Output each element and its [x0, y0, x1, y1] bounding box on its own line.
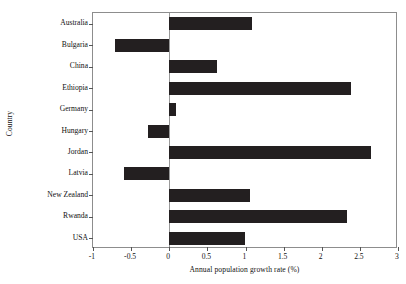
- x-axis-tick: [131, 247, 132, 251]
- y-axis-tick-label: Latvia: [69, 167, 88, 179]
- y-axis-tick: [89, 195, 93, 196]
- bar-germany: [169, 103, 176, 116]
- x-axis-tick-label: 1.5: [266, 252, 300, 261]
- x-axis-tick-label: -1: [75, 252, 109, 261]
- y-axis-tick-label: Jordan: [68, 146, 88, 158]
- y-axis-tick: [89, 217, 93, 218]
- y-axis-tick-label: Germany: [60, 103, 88, 115]
- x-axis-tick: [398, 247, 399, 251]
- bar-china: [169, 60, 216, 73]
- bar-australia: [169, 17, 252, 30]
- bar-latvia: [124, 167, 170, 180]
- x-axis-tick-label: 3: [380, 252, 406, 261]
- x-axis-tick: [169, 247, 170, 251]
- y-axis-tick: [89, 45, 93, 46]
- x-axis-title: Annual population growth rate (%): [92, 265, 397, 274]
- x-axis-tick: [93, 247, 94, 251]
- bar-bulgaria: [115, 39, 169, 52]
- y-axis-tick: [89, 24, 93, 25]
- x-axis-tick-label: 1: [228, 252, 262, 261]
- x-axis-tick: [246, 247, 247, 251]
- y-axis-tick-label: Rwanda: [63, 210, 88, 222]
- bar-usa: [169, 232, 244, 245]
- x-axis-tick-label: 0: [151, 252, 185, 261]
- y-axis-tick-label: New Zealand: [47, 189, 88, 201]
- y-axis-tick-label: China: [70, 60, 88, 72]
- x-axis-tick: [284, 247, 285, 251]
- y-axis-tick-labels: AustraliaBulgariaChinaEthiopiaGermanyHun…: [12, 12, 88, 248]
- y-axis-tick-label: Bulgaria: [62, 39, 88, 51]
- x-axis-tick: [322, 247, 323, 251]
- y-axis-tick: [89, 110, 93, 111]
- y-axis-tick: [89, 131, 93, 132]
- y-axis-tick: [89, 238, 93, 239]
- y-axis-tick-label: USA: [73, 232, 88, 244]
- bar-ethiopia: [169, 82, 351, 95]
- bar-rwanda: [169, 210, 347, 223]
- bar-hungary: [148, 125, 169, 138]
- plot-area: [92, 12, 397, 248]
- y-axis-tick-label: Ethiopia: [62, 82, 88, 94]
- plot-inner: [93, 13, 396, 247]
- y-axis-tick: [89, 88, 93, 89]
- y-axis-tick-label: Australia: [60, 17, 88, 29]
- x-axis-tick: [360, 247, 361, 251]
- x-axis-tick-label: -0.5: [113, 252, 147, 261]
- y-axis-tick: [89, 174, 93, 175]
- bar-new-zealand: [169, 189, 250, 202]
- x-axis-tick-label: 2: [304, 252, 338, 261]
- x-axis-tick-label: 0.5: [189, 252, 223, 261]
- bar-chart: Country AustraliaBulgariaChinaEthiopiaGe…: [0, 0, 406, 284]
- x-axis-tick-label: 2.5: [342, 252, 376, 261]
- y-axis-tick: [89, 152, 93, 153]
- y-axis-tick-label: Hungary: [61, 125, 88, 137]
- y-axis-tick: [89, 67, 93, 68]
- bar-jordan: [169, 146, 370, 159]
- x-axis-tick: [207, 247, 208, 251]
